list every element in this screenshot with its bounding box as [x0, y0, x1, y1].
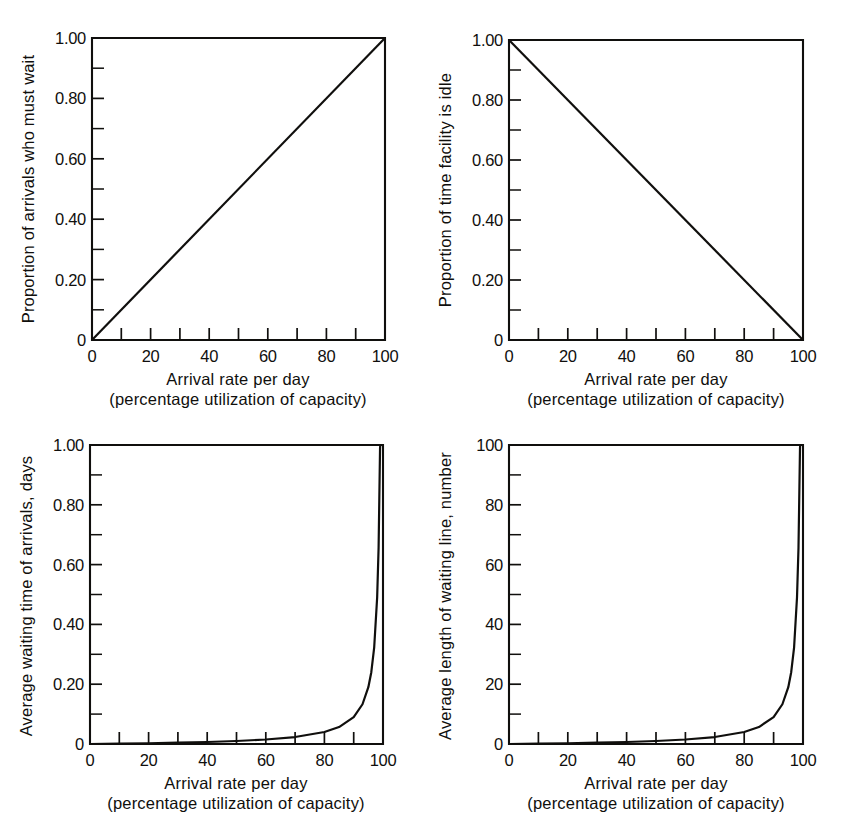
y-tick-label-a-5: 1.00	[55, 29, 86, 47]
x-tick-label-c-3: 60	[257, 751, 275, 769]
x-tick-label-a-2: 40	[200, 347, 218, 365]
x-axis-title-d-line2: (percentage utilization of capacity)	[527, 794, 785, 812]
x-tick-label-d-1: 20	[559, 751, 577, 769]
x-tick-label-b-4: 80	[735, 347, 753, 365]
y-tick-label-b-5: 1.00	[472, 31, 503, 49]
plot-frame-d	[509, 445, 803, 744]
data-series-c	[90, 445, 380, 744]
x-tick-label-a-4: 80	[318, 347, 336, 365]
x-tick-label-a-0: 0	[88, 347, 97, 365]
y-tick-label-c-5: 1.00	[53, 436, 84, 454]
y-tick-label-c-2: 0.40	[53, 615, 84, 633]
y-tick-label-b-1: 0.20	[472, 271, 503, 289]
y-axis-title-d: Average length of waiting line, number	[436, 452, 454, 740]
y-tick-label-d-0: 0	[494, 735, 503, 753]
chart-svg-b: 1.00 0.80 0.60 0.40 0.20 0 0 20 40 60 80…	[421, 0, 842, 414]
y-tick-label-d-3: 60	[485, 556, 503, 574]
x-tick-label-b-5: 100	[790, 347, 817, 365]
y-minor-ticks-a	[92, 68, 104, 310]
y-tick-label-d-2: 40	[485, 615, 503, 633]
x-axis-title-c-line1: Arrival rate per day	[164, 774, 308, 792]
y-minor-ticks-d	[509, 475, 521, 714]
x-tick-label-b-1: 20	[559, 347, 577, 365]
x-tick-label-c-5: 100	[370, 751, 397, 769]
x-tick-label-b-2: 40	[618, 347, 636, 365]
x-tick-label-c-4: 80	[316, 751, 334, 769]
y-tick-label-a-0: 0	[77, 331, 86, 349]
x-axis-title-d-line1: Arrival rate per day	[584, 774, 728, 792]
chart-panel-a: 1.00 0.80 0.60 0.40 0.20 0 0 20 40 60 80…	[0, 0, 421, 414]
y-axis-title-a: Proportion of arrivals who must wait	[19, 55, 37, 324]
y-minor-ticks-b	[509, 70, 521, 310]
x-axis-title-b-line2: (percentage utilization of capacity)	[527, 390, 785, 408]
x-tick-label-a-5: 100	[372, 347, 399, 365]
y-tick-label-d-4: 80	[485, 496, 503, 514]
x-tick-label-b-3: 60	[677, 347, 695, 365]
x-tick-label-d-3: 60	[677, 751, 695, 769]
chart-svg-c: 1.00 0.80 0.60 0.40 0.20 0 0 20 40 60 80…	[0, 414, 421, 828]
y-tick-label-c-4: 0.80	[53, 496, 84, 514]
y-tick-label-a-1: 0.20	[55, 271, 86, 289]
y-tick-label-d-1: 20	[485, 675, 503, 693]
y-minor-ticks-c	[90, 475, 102, 714]
y-tick-label-b-4: 0.80	[472, 91, 503, 109]
x-tick-label-a-3: 60	[259, 347, 277, 365]
chart-svg-a: 1.00 0.80 0.60 0.40 0.20 0 0 20 40 60 80…	[0, 0, 421, 414]
x-axis-title-a-line1: Arrival rate per day	[166, 370, 310, 388]
y-tick-label-d-5: 100	[476, 436, 503, 454]
x-tick-label-d-4: 80	[735, 751, 753, 769]
x-tick-label-c-1: 20	[140, 751, 158, 769]
data-series-d	[509, 445, 800, 744]
y-tick-label-b-3: 0.60	[472, 151, 503, 169]
x-tick-label-d-0: 0	[505, 751, 514, 769]
x-tick-label-b-0: 0	[505, 347, 514, 365]
x-tick-label-d-2: 40	[618, 751, 636, 769]
y-axis-title-c: Average waiting time of arrivals, days	[17, 456, 35, 737]
x-tick-label-d-5: 100	[790, 751, 817, 769]
chart-panel-c: 1.00 0.80 0.60 0.40 0.20 0 0 20 40 60 80…	[0, 414, 421, 828]
y-axis-title-b: Proportion of time facility is idle	[436, 73, 454, 307]
chart-panel-b: 1.00 0.80 0.60 0.40 0.20 0 0 20 40 60 80…	[421, 0, 842, 414]
data-series-b	[509, 40, 803, 340]
x-ticks-a	[121, 328, 355, 340]
y-tick-label-b-0: 0	[494, 331, 503, 349]
data-series-a	[92, 38, 385, 340]
x-axis-title-c-line2: (percentage utilization of capacity)	[107, 794, 365, 812]
plot-frame-c	[90, 445, 383, 744]
y-tick-label-c-0: 0	[75, 735, 84, 753]
x-axis-title-b-line1: Arrival rate per day	[584, 370, 728, 388]
x-axis-title-a-line2: (percentage utilization of capacity)	[109, 390, 367, 408]
y-tick-label-a-4: 0.80	[55, 89, 86, 107]
x-ticks-b	[538, 328, 773, 340]
chart-panel-d: 100 80 60 40 20 0 0 20 40 60 80 100 Arri…	[421, 414, 842, 828]
y-tick-label-b-2: 0.40	[472, 211, 503, 229]
y-tick-label-a-3: 0.60	[55, 150, 86, 168]
y-tick-label-c-1: 0.20	[53, 675, 84, 693]
x-tick-label-c-0: 0	[86, 751, 95, 769]
figure-grid: 1.00 0.80 0.60 0.40 0.20 0 0 20 40 60 80…	[0, 0, 843, 829]
chart-svg-d: 100 80 60 40 20 0 0 20 40 60 80 100 Arri…	[421, 414, 842, 828]
x-tick-label-a-1: 20	[142, 347, 160, 365]
x-tick-label-c-2: 40	[198, 751, 216, 769]
y-tick-label-c-3: 0.60	[53, 556, 84, 574]
y-tick-label-a-2: 0.40	[55, 210, 86, 228]
